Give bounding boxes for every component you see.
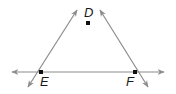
label-e: E xyxy=(40,74,49,89)
point-d xyxy=(86,21,90,25)
label-d: D xyxy=(84,5,93,20)
triangle-diagram: D E F xyxy=(0,0,176,94)
line-de xyxy=(28,10,77,87)
line-df xyxy=(100,10,148,87)
label-f: F xyxy=(126,74,135,89)
